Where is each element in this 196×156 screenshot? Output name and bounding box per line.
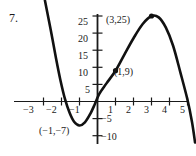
x-tick-label-neg3: −3 <box>23 105 34 115</box>
point-label-mid: (1,9) <box>114 67 133 77</box>
x-tick-label-4: 4 <box>162 105 167 115</box>
x-tick-label-neg2: −2 <box>46 105 57 115</box>
x-tick-label-5: 5 <box>180 105 185 115</box>
y-tick-label-25: 25 <box>78 17 88 27</box>
y-tick-label-10: 10 <box>78 68 88 78</box>
data-point-marker-0 <box>149 13 154 18</box>
y-tick-label-15: 15 <box>78 51 88 61</box>
y-tick-label-neg5: −5 <box>101 114 112 124</box>
x-tick-label-neg1: −1 <box>69 105 80 115</box>
figure-panel: 7. −3 −2 −1 1 2 3 4 5 25 20 15 10 5 −5 −… <box>0 0 196 156</box>
y-tick-label-neg10: −10 <box>101 132 117 142</box>
x-tick-label-3: 3 <box>144 105 149 115</box>
point-label-min: (−1,−7) <box>39 126 69 136</box>
x-tick-label-2: 2 <box>126 105 131 115</box>
y-tick-label-5: 5 <box>85 85 90 95</box>
y-tick-label-20: 20 <box>78 34 88 44</box>
point-label-max: (3,25) <box>106 15 130 25</box>
cubic-graph <box>0 0 196 156</box>
